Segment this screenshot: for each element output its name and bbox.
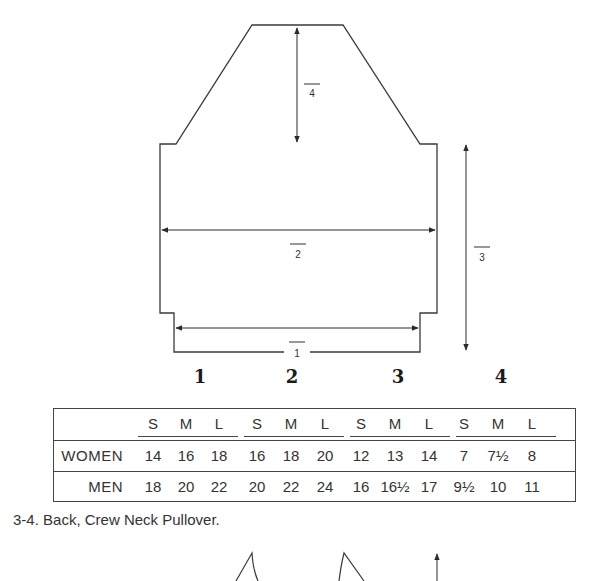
group-header-3: 3: [383, 366, 413, 387]
table-cell: 8: [517, 447, 547, 464]
size-header: L: [517, 415, 547, 432]
table-cell: 17: [414, 478, 444, 495]
measure-1-label: 1: [294, 348, 300, 359]
group-underline-3: [350, 436, 450, 437]
table-cell: 18: [276, 447, 306, 464]
row-label-women: WOMEN: [61, 447, 123, 464]
table-cell: 16½: [380, 478, 410, 495]
table-cell: 7: [449, 447, 479, 464]
table-row-men: MEN 18 20 22 20 22 24 16 16½ 17 9½ 10 11: [54, 471, 575, 503]
group-header-2: 2: [277, 366, 307, 387]
measure-2-label: 2: [295, 249, 301, 260]
table-cell: 7½: [483, 447, 513, 464]
group-header-1: 1: [185, 366, 215, 387]
table-cell: 24: [310, 478, 340, 495]
group-header-4: 4: [486, 366, 516, 387]
group-underline-1: [138, 436, 238, 437]
size-header: S: [242, 415, 272, 432]
size-header: S: [138, 415, 168, 432]
garment-outline: [160, 25, 437, 352]
size-header: M: [380, 415, 410, 432]
table-cell: 16: [171, 447, 201, 464]
figure-number: 3-4.: [13, 511, 39, 528]
table-cell: 20: [310, 447, 340, 464]
size-header: L: [414, 415, 444, 432]
row-label-men: MEN: [88, 478, 123, 495]
table-cell: 16: [242, 447, 272, 464]
table-cell: 9½: [449, 478, 479, 495]
size-table: S M L S M L S M L S M L WOMEN 14 16 18 1…: [53, 408, 576, 502]
figure-caption-text: Back, Crew Neck Pullover.: [43, 511, 220, 528]
table-cell: 22: [276, 478, 306, 495]
table-cell: 11: [517, 478, 547, 495]
table-row-women: WOMEN 14 16 18 16 18 20 12 13 14 7 7½ 8: [54, 440, 575, 472]
group-underline-2: [244, 436, 344, 437]
figure-caption: 3-4. Back, Crew Neck Pullover.: [13, 511, 220, 528]
group-underline-4: [456, 436, 556, 437]
table-cell: 20: [171, 478, 201, 495]
table-cell: 18: [138, 478, 168, 495]
table-cell: 14: [138, 447, 168, 464]
size-header: L: [310, 415, 340, 432]
measure-3-label: 3: [479, 252, 485, 263]
size-header: M: [276, 415, 306, 432]
size-header: L: [204, 415, 234, 432]
measure-4-label: 4: [309, 88, 315, 99]
table-cell: 12: [346, 447, 376, 464]
size-header: M: [483, 415, 513, 432]
table-cell: 13: [380, 447, 410, 464]
table-cell: 14: [414, 447, 444, 464]
table-cell: 18: [204, 447, 234, 464]
table-cell: 10: [483, 478, 513, 495]
table-cell: 16: [346, 478, 376, 495]
size-header: S: [449, 415, 479, 432]
size-header: S: [346, 415, 376, 432]
table-cell: 22: [204, 478, 234, 495]
next-figure-partial-sketch-2: [339, 553, 364, 581]
size-header-row: S M L S M L S M L S M L: [54, 409, 575, 440]
next-figure-partial-sketch: [236, 553, 258, 581]
table-cell: 20: [242, 478, 272, 495]
size-header: M: [171, 415, 201, 432]
